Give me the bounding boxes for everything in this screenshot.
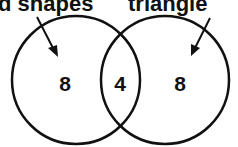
venn-diagram: d shapes triangle 8 4 8 [0, 0, 238, 147]
intersection-count: 4 [114, 72, 126, 95]
title-left-fragment: d shapes [0, 0, 93, 16]
left-only-count: 8 [59, 72, 71, 95]
title-right-fragment: triangle [128, 0, 207, 16]
right-only-count: 8 [174, 72, 186, 95]
